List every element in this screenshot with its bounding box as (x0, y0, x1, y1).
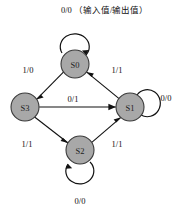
state-node-s1[interactable]: S1 (116, 93, 144, 121)
state-node-s2-label: S2 (76, 146, 85, 156)
edge-label-s3-to-s2: 1/1 (22, 139, 33, 149)
edge-label-s1-self-loop: 0/0 (161, 93, 172, 103)
state-node-s3[interactable]: S3 (11, 93, 39, 121)
edge-label-s2-to-s1: 1/1 (112, 139, 123, 149)
edge-s2-to-s1-arrowhead (114, 117, 121, 122)
state-node-s0-label: S0 (71, 60, 80, 70)
state-node-s1-label: S1 (126, 103, 135, 113)
edge-label-s1-to-s0: 1/1 (112, 65, 123, 75)
edge-label-s0-to-s3: 1/0 (23, 65, 34, 75)
state-transition-diagram: S0 S3 S1 S2 0/0 （输入值/输出值） 1/0 1/1 0/1 1/… (0, 0, 186, 209)
state-diagram-container: S0 S3 S1 S2 0/0 （输入值/输出值） 1/0 1/1 0/1 1/… (0, 0, 186, 209)
state-node-s0[interactable]: S0 (61, 50, 89, 78)
self-loop-s2-path (66, 162, 94, 184)
edge-label-s2-self-loop: 0/0 (75, 196, 86, 206)
edge-s1-to-s0 (86, 72, 119, 99)
edge-s3-to-s1-arrowhead (108, 104, 115, 110)
state-node-s3-label: S3 (21, 103, 30, 113)
edge-label-s3-to-s1: 0/1 (68, 94, 79, 104)
edge-s3-to-s1 (39, 104, 116, 110)
self-loop-s2 (66, 162, 94, 184)
legend-label: 0/0 （输入值/输出值） (61, 5, 148, 15)
edge-s1-to-s0-arrowhead (86, 72, 94, 77)
edge-s3-to-s2 (34, 117, 68, 143)
edge-s0-to-s3 (36, 72, 64, 100)
state-node-s2[interactable]: S2 (66, 136, 94, 164)
